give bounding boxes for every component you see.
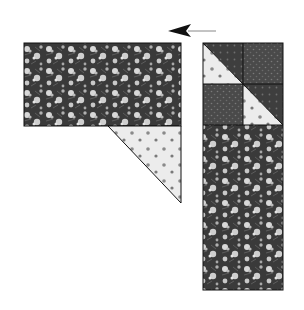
square-top-right — [243, 43, 283, 84]
light-print-triangle — [108, 126, 181, 203]
square-middle-left — [203, 84, 243, 125]
right-unit — [203, 43, 283, 290]
dark-floral-rectangle — [24, 43, 181, 126]
quilt-diagram — [0, 0, 304, 310]
dark-floral-strip — [203, 125, 283, 290]
left-unit — [24, 43, 181, 203]
arrow-left-icon — [168, 24, 216, 37]
